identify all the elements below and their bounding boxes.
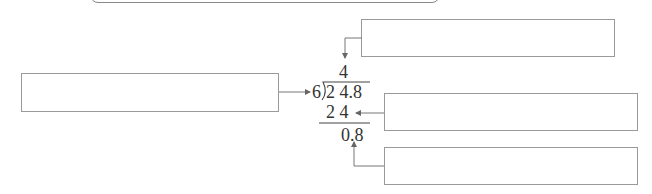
remainder-arrow <box>354 142 384 166</box>
connector-lines <box>0 0 652 194</box>
division-bracket <box>322 82 370 100</box>
quotient-arrow <box>345 38 361 58</box>
